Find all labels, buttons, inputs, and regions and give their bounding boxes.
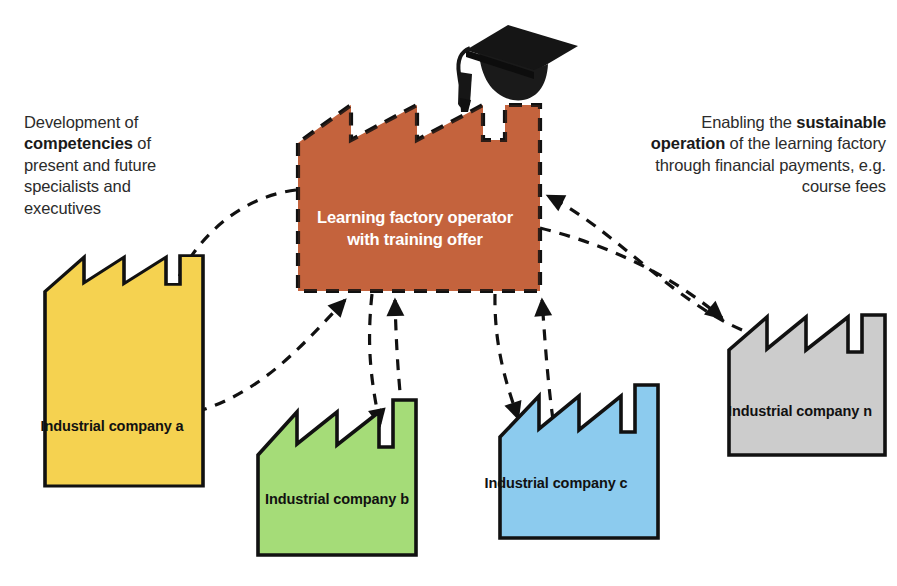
industrial-company-b-shape[interactable]: [258, 400, 416, 555]
industrial-company-a-shape[interactable]: [45, 256, 203, 486]
connector-center-to-company-n: [540, 228, 722, 318]
connector-center-to-company-c: [495, 294, 518, 418]
diagram-canvas: Development of competencies of present a…: [0, 0, 897, 586]
industrial-company-n-shape[interactable]: [729, 315, 885, 455]
connector-center-to-company-b: [370, 294, 380, 425]
connector-company-n-to-center: [548, 196, 742, 330]
note-right-pre: Enabling the: [701, 113, 796, 131]
graduation-cap-icon: [458, 25, 578, 112]
note-left-emphasis: competencies: [24, 134, 133, 152]
note-left-pre: Development of: [24, 113, 138, 131]
sustainable-operation-note: Enabling the sustainable operation of th…: [648, 112, 886, 198]
connector-company-c-to-center: [542, 300, 553, 420]
connector-company-a-to-center: [196, 300, 345, 412]
diagram-graphics: [0, 0, 897, 586]
competency-development-note: Development of competencies of present a…: [24, 112, 209, 219]
industrial-company-c-shape[interactable]: [500, 385, 658, 538]
